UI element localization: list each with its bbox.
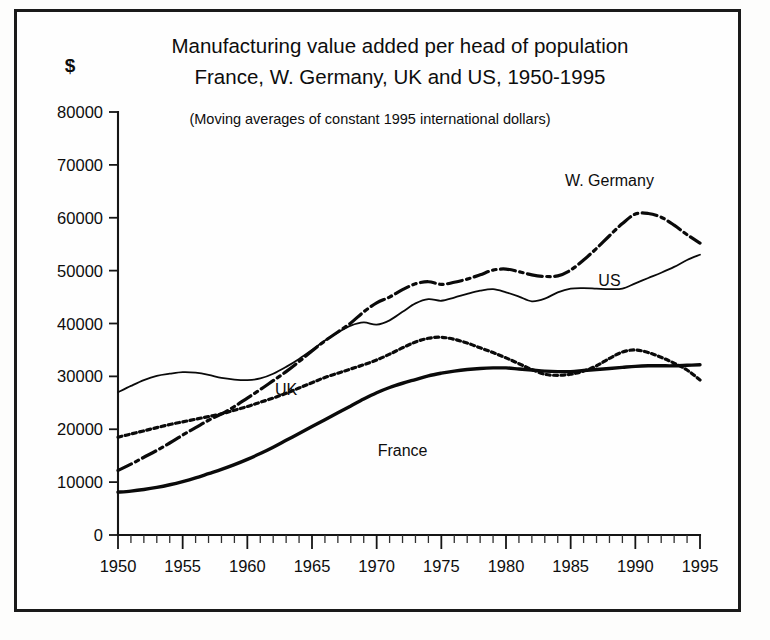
x-tick-label: 1950 <box>100 557 137 575</box>
x-tick-label: 1975 <box>423 557 460 575</box>
x-tick-label: 1995 <box>682 557 719 575</box>
y-tick-label: 20000 <box>57 420 103 438</box>
chart-title-line-2: France, W. Germany, UK and US, 1950-1995 <box>195 65 606 88</box>
x-tick-label: 1980 <box>488 557 525 575</box>
y-tick-label: 0 <box>94 526 103 544</box>
y-tick-label: 30000 <box>57 367 103 385</box>
series-line-w-germany <box>118 213 700 471</box>
x-axis-tick-labels: 1950195519601965197019751980198519901995 <box>100 557 719 575</box>
x-tick-label: 1955 <box>164 557 201 575</box>
chart-title-group: $ Manufacturing value added per head of … <box>65 34 629 127</box>
series-label-w-germany: W. Germany <box>565 172 654 189</box>
x-tick-label: 1985 <box>552 557 589 575</box>
chart-title-line-1: Manufacturing value added per head of po… <box>171 34 628 57</box>
series-label-us: US <box>598 272 620 289</box>
series-line-uk <box>118 337 700 437</box>
y-tick-label: 40000 <box>57 315 103 333</box>
figure-root: $ Manufacturing value added per head of … <box>0 0 770 640</box>
x-tick-label: 1965 <box>294 557 331 575</box>
line-chart: $ Manufacturing value added per head of … <box>0 0 770 640</box>
y-tick-label: 80000 <box>57 103 103 121</box>
y-axis-unit-label: $ <box>65 55 76 76</box>
y-tick-label: 60000 <box>57 209 103 227</box>
series-line-france <box>118 365 700 492</box>
y-tick-label: 70000 <box>57 156 103 174</box>
x-tick-label: 1960 <box>229 557 266 575</box>
chart-subtitle-note: (Moving averages of constant 1995 intern… <box>189 111 550 127</box>
series-label-france: France <box>378 442 428 459</box>
x-tick-label: 1970 <box>358 557 395 575</box>
x-tick-label: 1990 <box>617 557 654 575</box>
series-label-uk: UK <box>275 381 298 398</box>
y-tick-label: 10000 <box>57 473 103 491</box>
y-tick-label: 50000 <box>57 262 103 280</box>
y-axis-tick-labels: 0100002000030000400005000060000700008000… <box>57 103 103 544</box>
